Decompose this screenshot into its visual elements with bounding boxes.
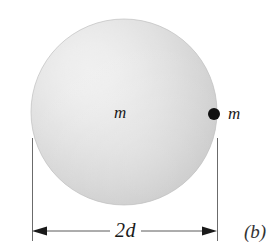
particle-mass-label: m — [228, 105, 240, 122]
dimension-label: 2d — [110, 220, 141, 240]
left-arrowhead — [32, 227, 47, 236]
figure-canvas — [0, 0, 278, 246]
panel-label: (b) — [244, 222, 266, 241]
sphere-mass-label: m — [114, 104, 126, 121]
physics-figure-panel-b: m m 2d (b) — [0, 0, 278, 246]
point-mass-dot — [208, 108, 220, 120]
right-arrowhead — [202, 227, 217, 236]
